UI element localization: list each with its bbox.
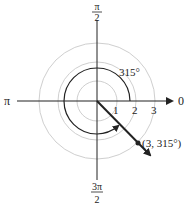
label-pi-over-2: π 2 — [92, 1, 102, 23]
angle-label: 315° — [119, 66, 140, 78]
point-marker — [136, 141, 141, 146]
label-3pi-over-2: 3π 2 — [91, 181, 103, 205]
label-pi-over-2-den: 2 — [95, 12, 100, 23]
point-label: (3, 315°) — [142, 137, 182, 150]
label-0: 0 — [178, 94, 184, 108]
polar-diagram: 0 π π 2 3π 2 1 2 3 315° (3, 315°) — [0, 0, 189, 207]
ring-label-1: 1 — [113, 104, 119, 116]
ring-label-3: 3 — [151, 104, 157, 116]
ring-label-2: 2 — [132, 104, 138, 116]
label-3pi-over-2-den: 2 — [95, 194, 100, 205]
label-3pi-over-2-num: 3π — [92, 181, 102, 192]
label-pi: π — [4, 94, 10, 108]
label-pi-over-2-num: π — [94, 1, 99, 12]
